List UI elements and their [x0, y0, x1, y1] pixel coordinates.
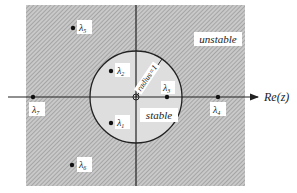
eigenvalue-dot	[70, 163, 74, 167]
eigenvalue-dot	[71, 26, 75, 30]
eigenvalue-dot	[109, 121, 113, 125]
stable-label: stable	[146, 109, 172, 121]
unstable-label: unstable	[199, 33, 236, 45]
stability-diagram: radius=1 unstable stable Re(z) λ5 λ2 λ3 …	[0, 0, 297, 193]
real-axis-label: Re(z)	[263, 90, 289, 104]
eigenvalue-dot	[109, 69, 113, 73]
eigenvalue-dot	[31, 95, 35, 99]
eigenvalue-dot	[165, 95, 169, 99]
eigenvalue-dot	[216, 95, 220, 99]
